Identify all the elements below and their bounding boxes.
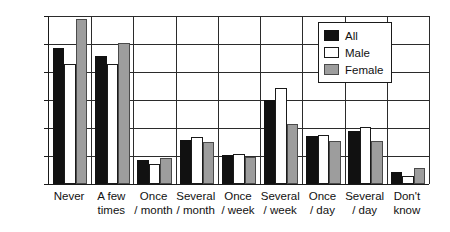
y-tick-mark-2: [44, 72, 49, 73]
y-tick-mark-4: [44, 128, 49, 129]
bar-female: [245, 157, 257, 184]
legend-label-all: All: [345, 30, 358, 42]
bar-all: [222, 155, 234, 184]
bar-group: [222, 16, 257, 184]
bar-male: [402, 176, 414, 184]
x-axis-label-line1: Don't: [394, 190, 421, 202]
y-tick-mark-5: [44, 156, 49, 157]
bar-group: [53, 16, 88, 184]
gridline-v-1: [91, 16, 92, 184]
bar-all: [391, 172, 403, 184]
bar-male: [191, 137, 203, 184]
chart-legend: All Male Female: [318, 22, 392, 83]
bar-female: [76, 19, 88, 184]
legend-item-all: All: [324, 27, 383, 44]
bar-male: [360, 127, 372, 184]
bar-female: [287, 124, 299, 184]
bar-group: [391, 16, 426, 184]
legend-swatch-male-icon: [324, 47, 339, 58]
bar-group: [137, 16, 172, 184]
gridline-v-5: [260, 16, 261, 184]
gridline-v-2: [133, 16, 134, 184]
bar-all: [348, 131, 360, 184]
bar-chart: 30%25%20%15%10%5%0 NeverA fewtimesOnce/ …: [0, 0, 450, 232]
legend-swatch-all-icon: [324, 30, 339, 41]
bar-all: [137, 160, 149, 184]
x-axis-label-line2: know: [373, 204, 441, 218]
bar-female: [371, 141, 383, 184]
bar-all: [264, 100, 276, 184]
bar-male: [149, 164, 161, 184]
bar-male: [64, 64, 76, 184]
legend-item-male: Male: [324, 44, 383, 61]
bar-female: [414, 168, 426, 184]
bar-female: [118, 43, 130, 184]
bar-male: [233, 154, 245, 184]
bar-all: [53, 48, 65, 184]
bar-all: [95, 56, 107, 184]
x-axis-label-8: Don'tknow: [373, 190, 441, 217]
bar-male: [318, 135, 330, 184]
bar-male: [107, 64, 119, 184]
bar-all: [306, 136, 318, 184]
bar-group: [180, 16, 215, 184]
bar-all: [180, 140, 192, 184]
legend-item-female: Female: [324, 61, 383, 78]
gridline-v-6: [302, 16, 303, 184]
plot-right-border: [429, 16, 430, 184]
bar-male: [275, 88, 287, 184]
bar-group: [95, 16, 130, 184]
legend-swatch-female-icon: [324, 64, 339, 75]
legend-label-female: Female: [345, 64, 383, 76]
bar-female: [160, 158, 172, 184]
gridline-v-3: [176, 16, 177, 184]
y-tick-mark-3: [44, 100, 49, 101]
bar-female: [329, 141, 341, 184]
legend-label-male: Male: [345, 47, 370, 59]
bar-female: [203, 142, 215, 184]
y-tick-mark-zero: [44, 184, 49, 185]
y-tick-mark-1: [44, 44, 49, 45]
gridline-v-4: [218, 16, 219, 184]
bar-group: [264, 16, 299, 184]
